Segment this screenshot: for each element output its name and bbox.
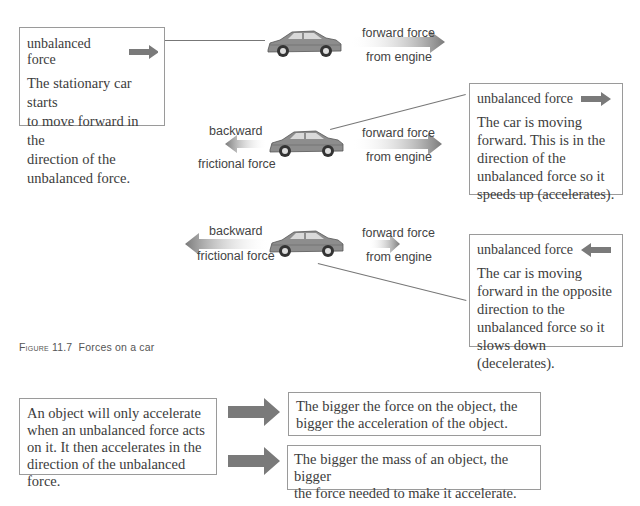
figure-caption: Figure 11.7 Forces on a car (19, 341, 155, 353)
arrow-right-icon (129, 45, 158, 59)
car-icon (268, 128, 348, 160)
from-engine-label: from engine (366, 250, 432, 264)
info-box-stationary: unbalanced force The stationary car star… (19, 27, 165, 126)
summary-box-main: An object will only accelerate when an u… (19, 398, 217, 475)
body-line: The car is moving (477, 264, 616, 282)
backward-label: backward (209, 124, 263, 138)
summary-line: bigger the acceleration of the object. (296, 415, 534, 432)
summary-line: The bigger the force on the object, the (296, 398, 534, 415)
summary-line: when an unbalanced force acts (27, 422, 210, 439)
body-line: unbalanced force. (27, 169, 158, 188)
body-line: slows down (decelerates). (477, 336, 616, 372)
summary-line: the force needed to make it accelerate. (294, 485, 534, 502)
car-icon (268, 228, 348, 260)
car-icon (266, 28, 346, 60)
summary-line: direction of the unbalanced force. (27, 456, 210, 490)
from-engine-label: from engine (366, 150, 432, 164)
box-heading: unbalanced force (477, 242, 616, 258)
forward-force-label: forward force (362, 226, 435, 240)
body-line: forward in the opposite (477, 282, 616, 300)
connector-line (165, 40, 265, 41)
box-heading: unbalanced force (477, 91, 616, 107)
arrow-right-icon (228, 447, 280, 475)
info-box-decelerating: unbalanced force The car is moving forwa… (469, 234, 623, 347)
body-line: The car is moving (477, 113, 616, 131)
info-box-accelerating: unbalanced force The car is moving forwa… (469, 83, 623, 195)
box-body: The car is moving forward in the opposit… (477, 264, 616, 372)
body-line: direction of the (477, 149, 616, 167)
box-body: The stationary car starts to move forwar… (27, 74, 158, 188)
connector-line (318, 263, 467, 301)
frictional-force-label: frictional force (197, 249, 275, 263)
body-line: unbalanced force so it (477, 318, 616, 336)
summary-box-force: The bigger the force on the object, the … (288, 392, 541, 436)
caption-text: Forces on a car (79, 341, 155, 353)
arrow-right-icon (228, 398, 280, 426)
body-line: direction to the (477, 300, 616, 318)
summary-line: An object will only accelerate (27, 405, 210, 422)
frictional-force-label: frictional force (198, 157, 276, 171)
from-engine-label: from engine (366, 50, 432, 64)
body-line: to move forward in the (27, 112, 158, 150)
box-body: The car is moving forward. This is in th… (477, 113, 616, 203)
body-line: forward. This is in the (477, 131, 616, 149)
arrow-right-icon (581, 92, 611, 106)
heading-text: unbalanced force (27, 36, 121, 68)
body-line: The stationary car starts (27, 74, 158, 112)
box-heading: unbalanced force (27, 36, 158, 68)
connector-line (330, 94, 466, 130)
summary-line: on it. It then accelerates in the (27, 439, 210, 456)
summary-line: The bigger the mass of an object, the bi… (294, 451, 534, 485)
heading-text: unbalanced force (477, 91, 573, 107)
body-line: unbalanced force so it (477, 167, 616, 185)
forward-force-label: forward force (362, 26, 435, 40)
forward-force-label: forward force (362, 126, 435, 140)
backward-label: backward (209, 224, 263, 238)
summary-box-mass: The bigger the mass of an object, the bi… (287, 445, 541, 490)
heading-text: unbalanced force (477, 242, 573, 258)
body-line: direction of the (27, 150, 158, 169)
body-line: speeds up (accelerates). (477, 185, 616, 203)
figure-label: Figure 11.7 (19, 341, 72, 353)
arrow-left-icon (581, 243, 611, 257)
